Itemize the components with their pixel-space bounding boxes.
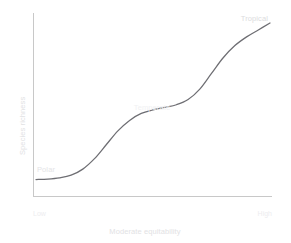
annotation-tropical: Tropical xyxy=(241,14,268,23)
x-tick-label-high: High xyxy=(258,210,273,218)
x-axis-title: Moderate equitability xyxy=(109,227,180,236)
plot-area: Species richness Moderate equitability L… xyxy=(0,0,291,243)
species-richness-curve xyxy=(36,23,270,180)
y-axis-title: Species richness xyxy=(18,97,27,155)
annotation-temperate: Temperate xyxy=(134,103,170,112)
annotation-polar: Polar xyxy=(37,165,55,174)
x-tick-label-low: Low xyxy=(33,210,47,217)
chart-figure: Species richness Moderate equitability L… xyxy=(0,0,291,243)
